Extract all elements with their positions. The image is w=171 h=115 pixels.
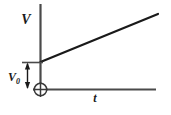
intercept-arrow-head-down [25,82,30,89]
intercept-label-subscript: 0 [16,77,20,86]
figure-container: V t V0 [0,0,171,115]
intercept-arrow-head-up [25,63,30,70]
intercept-label: V0 [8,70,20,86]
velocity-line [41,14,159,62]
x-axis-label: t [93,91,97,105]
y-axis-label: V [21,12,32,27]
velocity-time-graph: V t V0 [0,0,171,115]
